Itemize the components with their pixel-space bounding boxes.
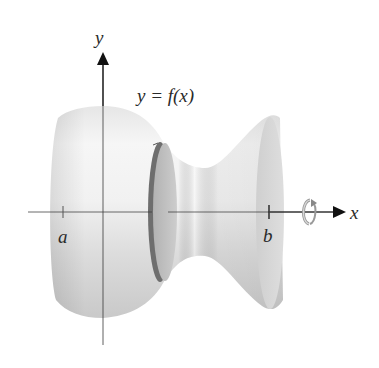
function-label: y = f(x): [137, 86, 194, 105]
left-bound-label: a: [58, 227, 68, 246]
x-axis-label: x: [350, 203, 358, 222]
right-end-face: [256, 117, 284, 309]
right-bound-label: b: [263, 226, 273, 245]
arrowhead-up-icon: [97, 52, 109, 65]
solid-of-revolution-figure: [0, 0, 379, 368]
diagram-canvas: y x y = f(x) a b: [0, 0, 379, 368]
y-axis-label: y: [95, 28, 103, 47]
arrowhead-right-icon: [333, 206, 346, 218]
